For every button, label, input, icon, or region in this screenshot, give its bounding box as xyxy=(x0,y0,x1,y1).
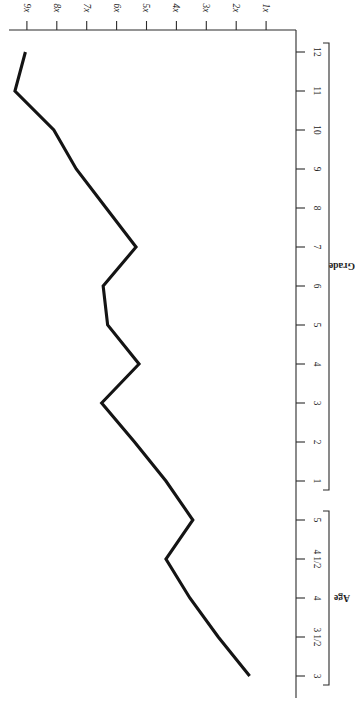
category-group-title-text: Grade xyxy=(329,261,355,272)
category-axis-tick-label-text: 10 xyxy=(312,125,322,134)
category-axis-tick-label-text: 11 xyxy=(312,87,322,96)
value-axis-tick-label-text: 4x xyxy=(171,4,181,13)
category-axis-tick-label-text: 5 xyxy=(312,323,322,328)
value-axis-tick-label-text: 9x xyxy=(22,4,32,13)
value-axis-tick-label-text: 1x xyxy=(261,4,271,13)
category-axis-tick-label-text: 7 xyxy=(312,245,322,250)
value-axis-tick-label-text: 8x xyxy=(52,4,62,13)
category-axis-tick-label-text: 2 xyxy=(312,440,322,445)
category-axis-tick-label-text: 12 xyxy=(312,47,322,56)
category-axis-tick-label-text: 6 xyxy=(312,284,322,289)
category-axis-tick-label-text: 5 xyxy=(312,518,322,523)
category-axis-tick-label-text: 9 xyxy=(312,167,322,172)
category-axis-tick-label-text: 8 xyxy=(312,206,322,211)
category-axis-tick-label-text: 3 xyxy=(312,401,322,406)
category-axis-tick-label-text: 1 xyxy=(312,479,322,484)
category-axis-tick-label-text: 3 xyxy=(312,674,322,679)
category-axis-tick-label-text: 4 xyxy=(312,362,322,367)
data-series-line xyxy=(15,52,250,676)
value-axis-tick-label-text: 3x xyxy=(201,4,211,13)
axis-ticks xyxy=(27,21,305,676)
value-axis-tick-label-text: 6x xyxy=(112,4,122,13)
value-axis-tick-label-text: 7x xyxy=(82,4,92,13)
category-group-title-text: Age xyxy=(334,593,350,604)
category-axis-tick-label-text: 4 xyxy=(312,596,322,601)
category-axis-tick-label-text: 4 1/2 xyxy=(312,550,322,569)
category-group-bracket xyxy=(323,511,329,685)
value-axis-tick-label-text: 2x xyxy=(231,4,241,13)
category-group-brackets xyxy=(323,43,329,685)
value-axis-tick-label-text: 5x xyxy=(142,4,152,13)
category-axis-tick-label-text: 3 1/2 xyxy=(312,628,322,647)
